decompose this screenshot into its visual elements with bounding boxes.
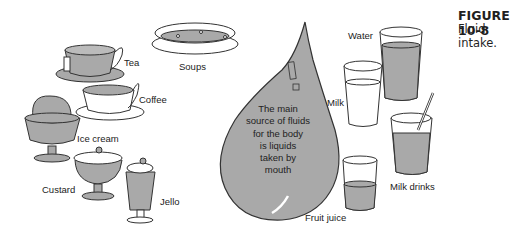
drop-caption-line: taken by bbox=[218, 152, 338, 164]
drop-caption-line: is liquids bbox=[218, 140, 338, 152]
milk-glass-icon bbox=[344, 61, 382, 127]
drop-caption-line: source of fluids bbox=[218, 115, 338, 127]
coffee-cup-icon bbox=[76, 84, 144, 120]
label-soups: Soups bbox=[179, 61, 206, 72]
water-glass-icon bbox=[380, 27, 422, 101]
ice-cream-icon bbox=[25, 96, 80, 162]
label-ice-cream: Ice cream bbox=[77, 133, 119, 144]
fruit-juice-glass-icon bbox=[343, 156, 377, 211]
drop-caption-line: for the body bbox=[218, 128, 338, 140]
custard-icon bbox=[74, 147, 122, 200]
label-fruit-juice: Fruit juice bbox=[305, 212, 346, 223]
tea-cup-icon bbox=[56, 45, 124, 82]
drop-caption-line: The main bbox=[218, 103, 338, 115]
label-custard: Custard bbox=[42, 184, 75, 195]
label-water: Water bbox=[348, 30, 373, 41]
milk-drinks-glass-icon bbox=[391, 93, 433, 175]
drop-caption: The main source of fluids for the body i… bbox=[218, 103, 338, 177]
drop-caption-line: mouth bbox=[218, 164, 338, 176]
label-coffee: Coffee bbox=[139, 94, 167, 105]
label-tea: Tea bbox=[124, 57, 139, 68]
jello-icon bbox=[126, 158, 155, 223]
label-milk-drinks: Milk drinks bbox=[390, 181, 435, 192]
label-jello: Jello bbox=[160, 196, 180, 207]
figure-caption: Fluid intake. bbox=[458, 22, 527, 50]
soup-bowl-icon bbox=[152, 23, 238, 54]
